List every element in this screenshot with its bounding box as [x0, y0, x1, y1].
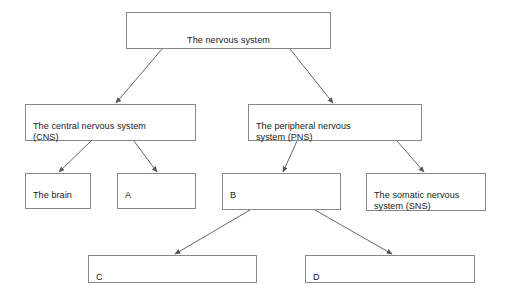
node-brain-label: The brain — [33, 190, 83, 202]
node-answer-d: D — [305, 255, 475, 283]
node-somatic-nervous-system-label: The somatic nervous system (SNS) — [374, 190, 478, 213]
node-answer-b: B — [222, 173, 341, 210]
node-answer-b-label: B — [230, 190, 333, 202]
nervous-system-flow-chart: The nervous system The central nervous s… — [0, 0, 510, 295]
node-answer-a-label: A — [125, 190, 188, 202]
node-nervous-system: The nervous system — [126, 12, 331, 49]
node-somatic-nervous-system: The somatic nervous system (SNS) — [366, 173, 486, 211]
node-central-nervous-system: The central nervous system (CNS) — [25, 104, 196, 141]
node-answer-d-label: D — [313, 272, 467, 284]
node-answer-c-label: C — [96, 272, 249, 284]
node-central-nervous-system-label: The central nervous system (CNS) — [33, 121, 188, 144]
node-peripheral-nervous-system: The peripheral nervous system (PNS) — [248, 104, 422, 141]
edge-b-to-c — [175, 210, 250, 254]
node-nervous-system-label: The nervous system — [134, 35, 323, 47]
node-answer-c: C — [88, 255, 257, 283]
node-peripheral-nervous-system-label: The peripheral nervous system (PNS) — [256, 121, 414, 144]
node-brain: The brain — [25, 173, 91, 209]
node-answer-a: A — [117, 173, 196, 209]
